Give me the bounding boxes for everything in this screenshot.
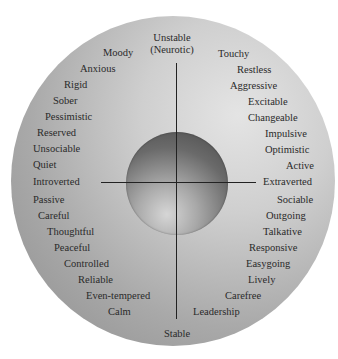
trait-label: Active bbox=[286, 160, 314, 172]
trait-label: Anxious bbox=[80, 63, 116, 75]
trait-label: Thoughtful bbox=[47, 226, 94, 238]
pole-bottom-label: Stable bbox=[164, 328, 190, 340]
trait-label: Talkative bbox=[263, 226, 302, 238]
trait-label: Pessimistic bbox=[45, 111, 92, 123]
trait-label: Moody bbox=[103, 47, 133, 59]
trait-label: Controlled bbox=[64, 258, 109, 270]
trait-label: Outgoing bbox=[266, 210, 306, 222]
trait-label: Optimistic bbox=[265, 144, 309, 156]
trait-label: Reliable bbox=[78, 274, 113, 286]
pole-right-label: Extraverted bbox=[263, 176, 312, 188]
trait-label: Leadership bbox=[193, 306, 240, 318]
trait-label: Impulsive bbox=[265, 128, 307, 140]
trait-label: Touchy bbox=[218, 48, 249, 60]
trait-label: Even-tempered bbox=[86, 290, 150, 302]
trait-label: Restless bbox=[237, 64, 271, 76]
trait-label: Peaceful bbox=[54, 242, 90, 254]
trait-label: Calm bbox=[108, 306, 131, 318]
trait-label: Aggressive bbox=[230, 80, 277, 92]
pole-top-line1: Unstable bbox=[150, 32, 194, 44]
trait-label: Sober bbox=[53, 95, 78, 107]
trait-label: Reserved bbox=[37, 127, 76, 139]
trait-label: Responsive bbox=[249, 242, 297, 254]
trait-label: Sociable bbox=[277, 194, 313, 206]
trait-label: Easygoing bbox=[246, 258, 290, 270]
vertical-axis-line bbox=[176, 63, 177, 319]
personality-diagram: Unstable (Neurotic) Stable Introverted E… bbox=[0, 0, 338, 359]
trait-label: Quiet bbox=[33, 159, 56, 171]
trait-label: Carefree bbox=[225, 290, 261, 302]
trait-label: Excitable bbox=[248, 96, 288, 108]
pole-top-label: Unstable (Neurotic) bbox=[150, 32, 194, 56]
center-sphere bbox=[126, 132, 228, 235]
trait-label: Passive bbox=[33, 194, 65, 206]
trait-label: Changeable bbox=[248, 112, 298, 124]
pole-top-line2: (Neurotic) bbox=[150, 44, 194, 56]
pole-left-label: Introverted bbox=[33, 176, 80, 188]
trait-label: Lively bbox=[248, 274, 275, 286]
trait-label: Unsociable bbox=[33, 143, 80, 155]
trait-label: Careful bbox=[38, 210, 70, 222]
trait-label: Rigid bbox=[64, 79, 87, 91]
horizontal-axis-line bbox=[101, 182, 256, 183]
